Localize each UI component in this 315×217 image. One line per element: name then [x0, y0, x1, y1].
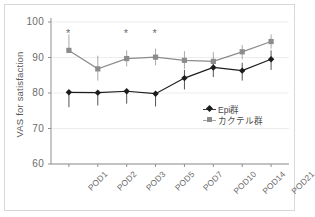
y-tick-80: 80 [18, 87, 44, 98]
legend-marker-cocktail-icon [203, 116, 216, 124]
y-tick-100: 100 [18, 16, 44, 27]
legend-item-cocktail[interactable]: カクテル群 [203, 114, 263, 126]
legend-label-cocktail: カクテル群 [218, 114, 263, 126]
chart-frame: VAS for satisfaction 60708090100 POD1POD… [4, 4, 295, 211]
significance-star-pod1: * [66, 28, 70, 39]
y-tick-70: 70 [18, 123, 44, 134]
significance-star-pod3: * [124, 28, 128, 39]
y-tick-60: 60 [18, 158, 44, 169]
significance-star-pod5: * [153, 28, 157, 39]
legend-marker-epi-icon [203, 105, 216, 113]
y-tick-90: 90 [18, 52, 44, 63]
